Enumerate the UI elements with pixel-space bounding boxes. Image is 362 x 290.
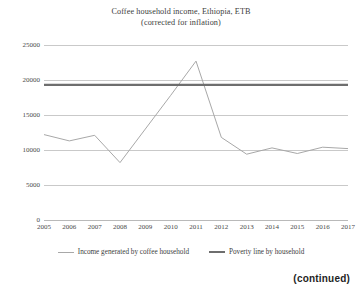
y-tick-label: 0 — [0, 216, 40, 224]
legend-label: Poverty line by household — [229, 248, 304, 256]
x-tick-label: 2005 — [37, 223, 51, 231]
chart-title-line-1: Coffee household income, Ethiopia, ETB — [0, 6, 362, 17]
continued-note: (continued) — [293, 273, 350, 284]
chart-figure: Coffee household income, Ethiopia, ETB (… — [0, 0, 362, 290]
chart-title: Coffee household income, Ethiopia, ETB (… — [0, 6, 362, 28]
legend-item: Income generated by coffee household — [58, 248, 189, 256]
x-tick-label: 2013 — [240, 223, 254, 231]
y-tick-label: 15000 — [0, 111, 40, 119]
x-tick-label: 2015 — [290, 223, 304, 231]
x-tick-label: 2016 — [316, 223, 330, 231]
y-tick-label: 5000 — [0, 181, 40, 189]
y-tick-label: 25000 — [0, 41, 40, 49]
chart-title-subtitle: (corrected for inflation) — [0, 17, 362, 28]
x-tick-label: 2009 — [138, 223, 152, 231]
x-tick-label: 2007 — [88, 223, 102, 231]
y-tick-label: 20000 — [0, 76, 40, 84]
x-tick-label: 2010 — [164, 223, 178, 231]
y-tick-label: 10000 — [0, 146, 40, 154]
x-axis-tick-labels: 2005200620072008200920102011201220132014… — [44, 223, 348, 237]
plot-area — [44, 45, 348, 220]
x-tick-label: 2008 — [113, 223, 127, 231]
x-tick-label: 2011 — [189, 223, 203, 231]
legend-line-icon — [58, 252, 74, 253]
chart-legend: Income generated by coffee householdPove… — [0, 248, 362, 256]
x-tick-label: 2012 — [214, 223, 228, 231]
legend-label: Income generated by coffee household — [78, 248, 189, 256]
legend-line-icon — [209, 251, 225, 253]
x-tick-label: 2017 — [341, 223, 355, 231]
x-tick-label: 2006 — [62, 223, 76, 231]
legend-item: Poverty line by household — [209, 248, 304, 256]
series-line — [44, 61, 348, 163]
y-axis-tick-labels: 0500010000150002000025000 — [0, 45, 40, 220]
x-tick-label: 2014 — [265, 223, 279, 231]
series-layer — [44, 45, 348, 220]
gridline-0 — [44, 220, 348, 221]
